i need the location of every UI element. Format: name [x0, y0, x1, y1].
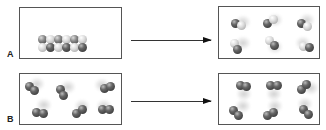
panel-label-b: B: [7, 114, 14, 124]
arrow-b: [131, 101, 211, 102]
arrow-a: [131, 40, 211, 41]
panel-a-after-box: [218, 6, 320, 59]
panel-b-before-box: [19, 73, 122, 125]
panel-b-after-box: [218, 73, 320, 125]
panel-a-before-box: [19, 7, 122, 59]
panel-label-a: A: [7, 49, 14, 59]
